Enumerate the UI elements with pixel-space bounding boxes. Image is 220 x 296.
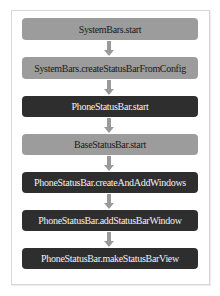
step-make-status-bar-view: PhoneStatusBar.makeStatusBarView xyxy=(22,248,198,269)
step-add-status-bar-window: PhoneStatusBar.addStatusBarWindow xyxy=(22,210,198,231)
step-label: PhoneStatusBar.makeStatusBarView xyxy=(41,253,179,264)
arrow-down-icon xyxy=(104,41,114,56)
step-label: SystemBars.createStatusBarFromConfig xyxy=(34,63,186,74)
step-label: PhoneStatusBar.createAndAddWindows xyxy=(34,177,186,188)
arrow-down-icon xyxy=(104,80,114,95)
step-create-and-add-windows: PhoneStatusBar.createAndAddWindows xyxy=(22,172,198,193)
step-label: PhoneStatusBar.addStatusBarWindow xyxy=(38,215,181,226)
step-label: SystemBars.start xyxy=(79,24,142,35)
step-create-status-bar-from-config: SystemBars.createStatusBarFromConfig xyxy=(22,57,198,79)
step-phonestatusbar-start: PhoneStatusBar.start xyxy=(22,96,198,117)
step-basestatusbar-start: BaseStatusBar.start xyxy=(22,134,198,155)
step-label: BaseStatusBar.start xyxy=(74,139,146,150)
arrow-down-icon xyxy=(104,156,114,171)
step-label: PhoneStatusBar.start xyxy=(71,101,148,112)
arrow-down-icon xyxy=(104,118,114,133)
arrow-down-icon xyxy=(104,194,114,209)
arrow-down-icon xyxy=(104,232,114,247)
step-systembars-start: SystemBars.start xyxy=(22,18,198,40)
